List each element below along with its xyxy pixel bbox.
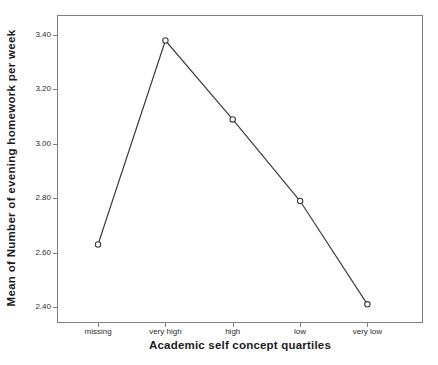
y-tick-mark xyxy=(53,198,57,199)
y-tick-label: 2.40 xyxy=(16,302,51,312)
x-tick-label: low xyxy=(265,327,335,337)
y-axis-title: Mean of Number of evening homework per w… xyxy=(5,30,17,307)
plot-area xyxy=(57,15,423,323)
y-tick-label: 2.60 xyxy=(16,248,51,258)
y-tick-label: 3.20 xyxy=(16,84,51,94)
x-tick-label: missing xyxy=(63,327,133,337)
mean-line-chart-figure: Mean of Number of evening homework per w… xyxy=(0,0,438,365)
x-tick-label: very low xyxy=(332,327,402,337)
y-tick-label: 3.40 xyxy=(16,30,51,40)
y-tick-mark xyxy=(53,35,57,36)
y-tick-mark xyxy=(53,89,57,90)
x-tick-label: very high xyxy=(130,327,200,337)
x-tick-label: high xyxy=(198,327,268,337)
y-tick-mark xyxy=(53,253,57,254)
y-tick-mark xyxy=(53,307,57,308)
y-tick-label: 2.80 xyxy=(16,193,51,203)
y-tick-mark xyxy=(53,144,57,145)
x-axis-title: Academic self concept quartiles xyxy=(57,339,423,351)
y-tick-label: 3.00 xyxy=(16,139,51,149)
